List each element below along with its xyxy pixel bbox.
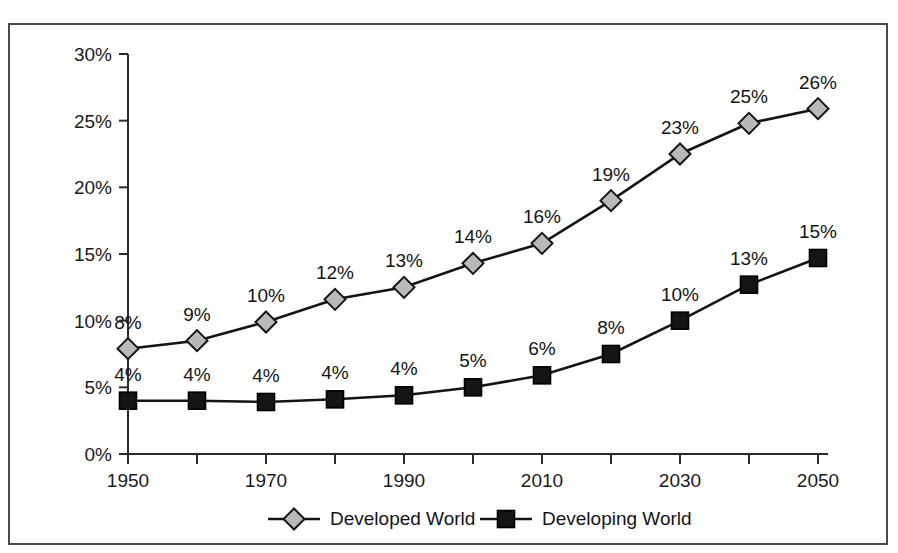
legend-label: Developed World [330,508,475,529]
data-point-label: 4% [390,358,418,379]
data-point-marker [187,330,208,351]
x-tick-label: 1970 [245,470,287,491]
data-point-marker [256,312,277,333]
series-2: 4%4%4%4%4%5%6%8%10%13%15% [114,221,837,411]
data-point-label: 12% [316,262,354,283]
x-tick-label: 2050 [797,470,839,491]
line-chart: 0%5%10%15%20%25%30%195019701990201020302… [10,25,886,543]
x-axis-ticks: 195019701990201020302050 [107,454,839,491]
data-point-label: 26% [799,72,837,93]
data-point-label: 16% [523,206,561,227]
data-point-label: 4% [321,362,349,383]
data-point-label: 8% [114,312,142,333]
data-point-marker [120,392,137,409]
data-point-label: 25% [730,86,768,107]
data-point-marker [808,98,829,119]
y-tick-label: 15% [74,244,112,265]
data-point-marker [670,144,691,165]
y-tick-label: 0% [85,444,113,465]
chart-frame: 0%5%10%15%20%25%30%195019701990201020302… [8,23,888,545]
data-point-marker [189,392,206,409]
data-point-marker [532,233,553,254]
x-tick-label: 2030 [659,470,701,491]
data-point-label: 6% [528,338,556,359]
legend-marker-diamond-icon [284,509,305,530]
series-1: 8%9%10%12%13%14%16%19%23%25%26% [114,72,837,360]
data-point-marker [465,379,482,396]
data-point-label: 13% [730,248,768,269]
data-point-marker [810,250,827,267]
data-point-label: 5% [459,350,487,371]
legend-item-2[interactable]: Developing World [480,508,692,529]
data-point-label: 9% [183,304,211,325]
data-point-marker [672,312,689,329]
data-point-label: 4% [183,364,211,385]
x-tick-label: 1950 [107,470,149,491]
data-point-label: 14% [454,226,492,247]
data-point-marker [739,113,760,134]
y-tick-label: 20% [74,177,112,198]
data-point-marker [394,277,415,298]
data-point-label: 4% [252,365,280,386]
data-point-marker [258,394,275,411]
data-point-label: 10% [247,285,285,306]
data-point-label: 19% [592,164,630,185]
legend-label: Developing World [542,508,692,529]
y-tick-label: 30% [74,44,112,65]
data-point-marker [603,346,620,363]
data-point-marker [327,391,344,408]
legend-item-1[interactable]: Developed World [268,508,475,529]
x-tick-label: 1990 [383,470,425,491]
data-point-marker [601,190,622,211]
y-tick-label: 10% [74,311,112,332]
data-point-label: 23% [661,117,699,138]
data-point-label: 15% [799,221,837,242]
data-point-marker [118,338,139,359]
legend: Developed WorldDeveloping World [268,508,692,529]
y-tick-label: 25% [74,111,112,132]
data-point-label: 13% [385,250,423,271]
data-point-label: 4% [114,364,142,385]
legend-marker-square-icon [498,511,515,528]
data-point-label: 8% [597,317,625,338]
data-point-marker [741,276,758,293]
data-point-marker [325,289,346,310]
data-point-marker [534,367,551,384]
x-tick-label: 2010 [521,470,563,491]
data-point-marker [463,253,484,274]
data-point-label: 10% [661,284,699,305]
y-tick-label: 5% [85,377,113,398]
data-point-marker [396,387,413,404]
